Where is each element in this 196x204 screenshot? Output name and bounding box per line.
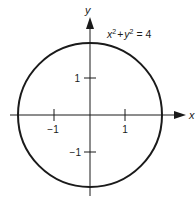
x-tick-label-neg1: −1 [47,124,59,135]
x-axis-label: x [188,109,195,121]
y-axis-arrow-icon [86,17,94,29]
x-axis-arrow-icon [174,111,186,119]
circle-diagram: −1 1 1 −1 x y x2+y2= 4 [0,0,196,204]
y-tick-label-pos1: 1 [74,73,80,84]
y-axis-label: y [84,4,92,16]
equation-label: x2+y2= 4 [106,28,152,40]
x-tick-label-pos1: 1 [122,124,128,135]
y-tick-label-neg1: −1 [70,147,82,158]
